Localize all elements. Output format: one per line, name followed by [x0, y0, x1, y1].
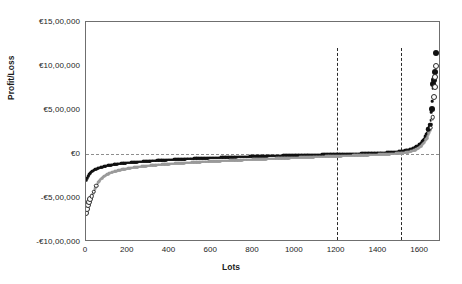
x-axis-tick-mark: [337, 240, 338, 241]
data-point: [431, 100, 434, 103]
x-axis-tick-label: 1600: [410, 245, 428, 254]
vertical-reference-line: [401, 48, 402, 240]
x-axis-tick-label: 400: [162, 245, 175, 254]
data-point-outlier: [429, 125, 434, 130]
x-axis-tick-label: 800: [245, 245, 258, 254]
data-point-outlier: [92, 190, 97, 195]
y-axis-tick-label: -€5,00,000: [41, 193, 80, 202]
vertical-reference-line: [337, 48, 338, 240]
x-axis-tick-label: 1400: [368, 245, 386, 254]
data-point-outlier: [432, 74, 438, 80]
x-axis-tick-label: 1200: [327, 245, 345, 254]
y-axis-tick-label: -€10,00,000: [36, 237, 80, 246]
data-point-outlier: [433, 50, 439, 56]
x-axis-tick-mark: [253, 240, 254, 241]
data-point-outlier: [432, 84, 438, 90]
y-axis-tick-label: €0: [71, 149, 80, 158]
x-axis-tick-mark: [295, 240, 296, 241]
x-axis-title: Lots: [0, 262, 462, 272]
y-axis-tick-label: €15,00,000: [39, 17, 80, 26]
y-axis-tick-label: €10,00,000: [39, 61, 80, 70]
x-axis-tick-mark: [128, 240, 129, 241]
x-axis-tick-mark: [170, 240, 171, 241]
y-axis-tick-mark: [85, 110, 86, 111]
x-axis-tick-label: 1000: [285, 245, 303, 254]
y-axis-tick-mark: [85, 22, 86, 23]
y-axis-tick-mark: [85, 66, 86, 67]
data-point: [85, 179, 88, 182]
x-axis-tick-mark: [211, 240, 212, 241]
y-axis-tick-mark: [85, 154, 86, 155]
data-point-outlier: [430, 115, 435, 120]
x-axis-tick-mark: [420, 240, 421, 241]
profit-loss-scatter-chart: Profit/Loss -€10,00,000-€5,00,000€0€5,00…: [0, 0, 462, 284]
data-point-outlier: [429, 106, 435, 112]
data-point-outlier: [90, 194, 95, 199]
x-axis-tick-mark: [86, 240, 87, 241]
data-point-outlier: [94, 183, 99, 188]
y-axis-tick-labels: -€10,00,000-€5,00,000€0€5,00,000€10,00,0…: [0, 0, 80, 284]
x-axis-tick-label: 600: [204, 245, 217, 254]
y-axis-tick-label: €5,00,000: [44, 105, 81, 114]
data-point-outlier: [433, 63, 439, 69]
x-axis-tick-label: 200: [120, 245, 133, 254]
x-axis-tick-label: 0: [83, 245, 87, 254]
plot-area: [85, 21, 440, 241]
x-axis-tick-mark: [378, 240, 379, 241]
data-point-outlier: [431, 94, 437, 100]
